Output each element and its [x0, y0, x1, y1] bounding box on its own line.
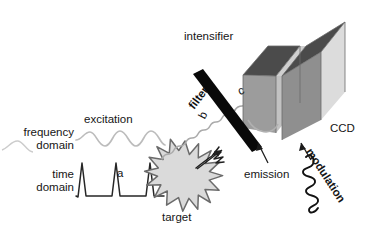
target-starburst — [145, 139, 223, 211]
label-frequency-domain: frequency domain — [2, 126, 74, 152]
label-excitation: excitation — [84, 113, 133, 126]
label-ccd: CCD — [330, 122, 355, 135]
label-intensifier: intensifier — [184, 30, 233, 43]
diagram-canvas: frequency domain time domain excitation … — [0, 0, 379, 240]
excitation-sine-wave — [76, 131, 165, 146]
label-target: target — [162, 211, 191, 224]
label-emission: emission — [244, 168, 289, 181]
label-time-domain: time domain — [2, 168, 74, 194]
label-a: a — [117, 167, 123, 180]
